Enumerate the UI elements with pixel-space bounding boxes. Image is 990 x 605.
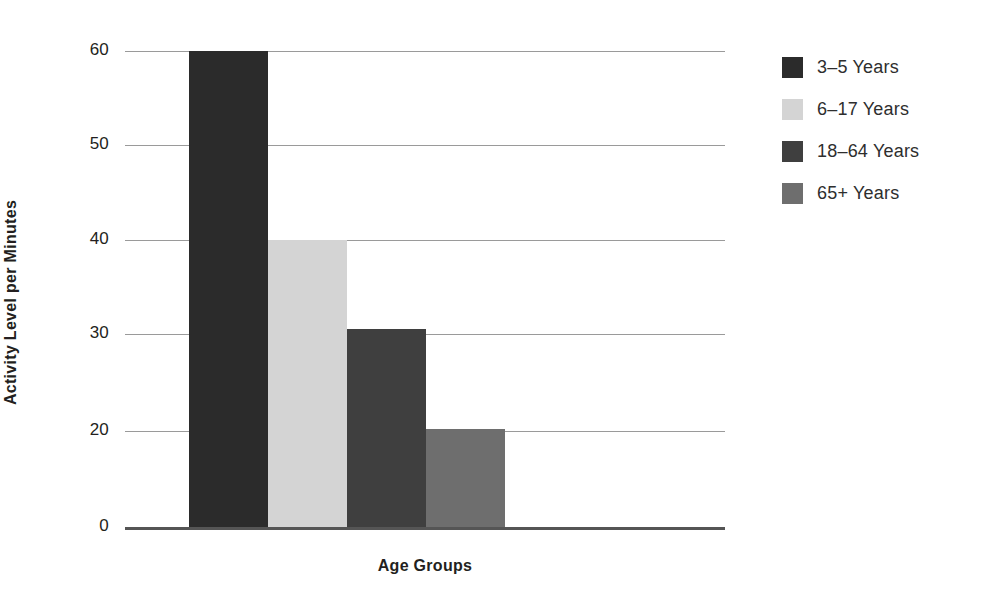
legend-swatch-icon — [782, 99, 803, 120]
legend-item[interactable]: 6–17 Years — [782, 97, 982, 121]
x-axis-title: Age Groups — [125, 557, 725, 575]
legend-swatch-icon — [782, 57, 803, 78]
bar-chart-figure: Activity Level per Minutes 02030405060 A… — [0, 0, 990, 605]
legend-item-label: 65+ Years — [817, 183, 899, 204]
bar — [347, 329, 426, 527]
legend-item-label: 18–64 Years — [817, 141, 919, 162]
bar — [426, 429, 505, 527]
y-axis-tick-label: 60 — [0, 40, 109, 60]
y-axis-tick-label: 40 — [0, 229, 109, 249]
legend-item-label: 6–17 Years — [817, 99, 909, 120]
y-axis-tick-label: 0 — [0, 516, 109, 536]
y-axis-tick-label: 20 — [0, 420, 109, 440]
legend-item[interactable]: 65+ Years — [782, 181, 982, 205]
legend-item[interactable]: 18–64 Years — [782, 139, 982, 163]
bar — [268, 240, 347, 527]
y-axis-tick-label: 30 — [0, 323, 109, 343]
bar — [189, 51, 268, 527]
legend-swatch-icon — [782, 141, 803, 162]
plot-area — [125, 51, 725, 527]
legend-item-label: 3–5 Years — [817, 57, 899, 78]
legend-item[interactable]: 3–5 Years — [782, 55, 982, 79]
x-axis-line — [125, 527, 725, 530]
y-axis-tick-label: 50 — [0, 134, 109, 154]
legend: 3–5 Years6–17 Years18–64 Years65+ Years — [782, 55, 982, 223]
y-axis-title: Activity Level per Minutes — [0, 0, 24, 605]
legend-swatch-icon — [782, 183, 803, 204]
